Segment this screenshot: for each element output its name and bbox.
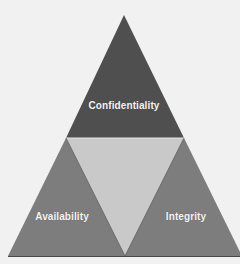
confidentiality-triangle xyxy=(66,15,184,138)
integrity-label: Integrity xyxy=(166,211,206,222)
confidentiality-label: Confidentiality xyxy=(89,100,160,111)
availability-label: Availability xyxy=(35,211,89,222)
cia-triad-diagram: Confidentiality Availability Integrity xyxy=(0,0,240,264)
triad-triangles xyxy=(0,0,240,264)
